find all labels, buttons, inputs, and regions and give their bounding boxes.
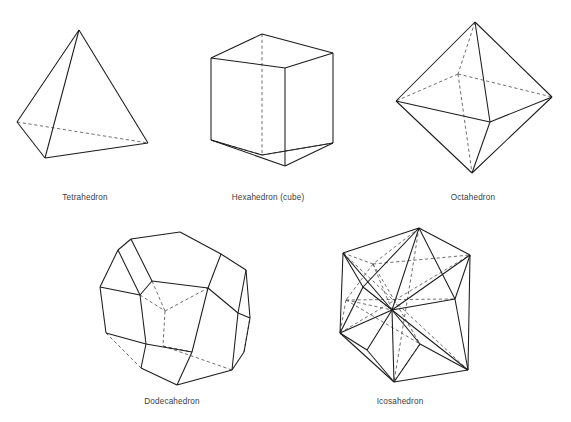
icosahedron-edge: [340, 253, 343, 333]
hexahedron-edge: [285, 143, 333, 166]
dodecahedron-edge: [244, 318, 250, 352]
tetrahedron-edge: [79, 30, 148, 143]
icosahedron-edge: [392, 255, 470, 310]
icosahedron-edge: [392, 310, 468, 370]
octahedron-edge: [396, 101, 490, 122]
dodecahedron-hidden-edge: [152, 281, 165, 311]
icosahedron-edge: [419, 228, 470, 255]
dodecahedron-edge: [146, 344, 192, 352]
label-tetrahedron: Tetrahedron: [62, 193, 108, 202]
icosahedron-edge: [367, 350, 394, 382]
dodecahedron-edge: [246, 270, 250, 318]
octahedron-edge: [396, 101, 472, 173]
solid-dodecahedron: Dodecahedron: [100, 232, 250, 406]
tetrahedron-edge: [17, 30, 79, 122]
dodecahedron-edge: [131, 239, 152, 281]
dodecahedron-edge: [100, 250, 118, 287]
icosahedron-hidden-edge: [346, 299, 455, 300]
octahedron-hidden-edge: [458, 74, 472, 173]
icosahedron-edge: [420, 344, 468, 370]
icosahedron-hidden-edge: [373, 228, 419, 264]
dodecahedron-edge: [208, 288, 238, 313]
dodecahedron-edge: [208, 254, 221, 288]
solid-icosahedron: Icosahedron: [340, 228, 470, 406]
icosahedron-edge: [468, 255, 470, 370]
octahedron-edge: [472, 97, 552, 173]
icosahedron-edge: [392, 310, 420, 344]
icosahedron-hidden-edge: [373, 255, 470, 264]
dodecahedron-edge: [141, 368, 177, 385]
dodecahedron-edge: [118, 250, 140, 295]
dodecahedron-edge: [140, 281, 152, 295]
tetrahedron-edge: [45, 143, 148, 158]
tetrahedron-hidden-edge: [17, 122, 148, 143]
solid-hexahedron: Hexahedron (cube): [211, 34, 333, 202]
label-octahedron: Octahedron: [451, 193, 496, 202]
tetrahedron-hidden-edges: [17, 122, 148, 143]
icosahedron-edge: [392, 310, 394, 382]
octahedron-edge: [475, 22, 490, 122]
solid-octahedron: Octahedron: [396, 22, 552, 202]
tetrahedron-edge: [45, 30, 79, 158]
dodecahedron-edge: [152, 281, 208, 288]
icosahedron-edge: [455, 255, 470, 299]
dodecahedron-edge: [177, 352, 192, 385]
icosahedron-edge: [392, 299, 455, 310]
dodecahedron-edge: [177, 370, 232, 385]
hexahedron-visible-edges: [211, 34, 333, 166]
icosahedron-edge: [340, 333, 367, 350]
solid-tetrahedron: Tetrahedron: [17, 30, 148, 202]
icosahedron-edge: [394, 370, 468, 382]
hexahedron-edge: [262, 143, 333, 155]
hexahedron-edge: [211, 58, 285, 68]
icosahedron-edge: [343, 253, 363, 287]
octahedron-hidden-edges: [396, 22, 552, 173]
label-icosahedron: Icosahedron: [377, 397, 424, 406]
dodecahedron-edge: [180, 232, 221, 254]
octahedron-hidden-edge: [396, 74, 458, 101]
hexahedron-hidden-edges: [211, 34, 333, 155]
icosahedron-edge: [340, 333, 394, 382]
dodecahedron-edge: [100, 287, 140, 295]
octahedron-edge: [490, 97, 552, 122]
dodecahedron-hidden-edge: [165, 288, 208, 311]
icosahedron-edge: [419, 228, 455, 299]
dodecahedron-hidden-edge: [163, 311, 165, 346]
hexahedron-edge: [285, 53, 333, 68]
dodecahedron-edge: [100, 287, 106, 333]
hexahedron-edge: [211, 34, 262, 58]
dodecahedron-edge: [238, 313, 250, 318]
icosahedron-edge: [394, 344, 420, 382]
icosahedron-edge: [392, 228, 419, 310]
hexahedron-edge: [262, 34, 333, 53]
tetrahedron-visible-edges: [17, 30, 148, 158]
solids-canvas: TetrahedronHexahedron (cube)OctahedronDo…: [0, 0, 571, 422]
hexahedron-edge: [211, 140, 262, 155]
icosahedron-visible-edges: [340, 228, 470, 382]
dodecahedron-hidden-edges: [106, 281, 250, 370]
dodecahedron-edge: [192, 288, 208, 352]
platonic-solids-figure: TetrahedronHexahedron (cube)OctahedronDo…: [0, 0, 571, 422]
dodecahedron-edge: [238, 270, 246, 313]
dodecahedron-edge: [221, 254, 246, 270]
label-dodecahedron: Dodecahedron: [144, 397, 200, 406]
icosahedron-hidden-edge: [373, 264, 420, 344]
octahedron-edge: [472, 122, 490, 173]
octahedron-visible-edges: [396, 22, 552, 173]
octahedron-edge: [475, 22, 552, 97]
dodecahedron-hidden-edge: [163, 346, 232, 370]
dodecahedron-edge: [131, 232, 180, 239]
dodecahedron-edge: [118, 239, 131, 250]
dodecahedron-visible-edges: [100, 232, 250, 385]
octahedron-edge: [396, 22, 475, 101]
tetrahedron-edge: [17, 122, 45, 158]
icosahedron-edge: [455, 299, 468, 370]
dodecahedron-edge: [141, 344, 146, 368]
icosahedron-hidden-edges: [340, 228, 470, 382]
label-hexahedron: Hexahedron (cube): [232, 193, 305, 202]
octahedron-hidden-edge: [458, 74, 552, 97]
dodecahedron-edge: [140, 295, 146, 344]
